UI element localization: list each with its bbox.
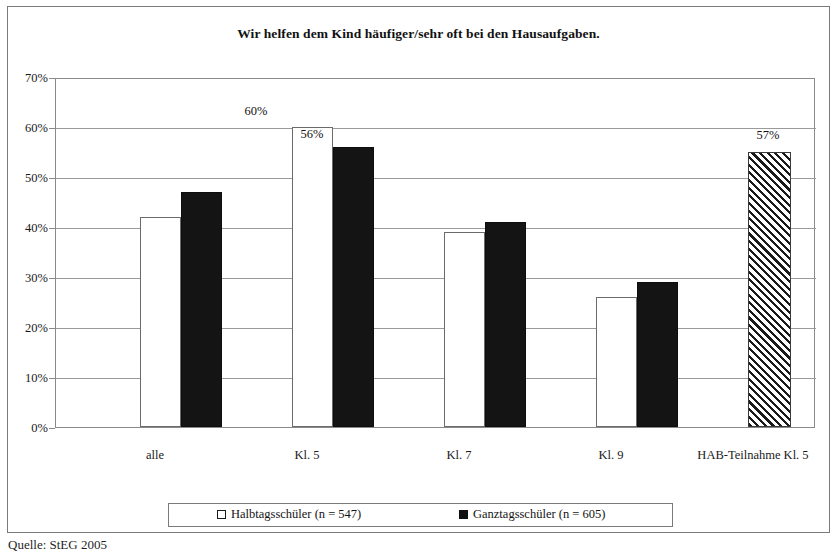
bar-kl7-ganztagsschueler: [485, 222, 526, 427]
x-category-label-hab-teilnahme-kl5: HAB-Teilnahme Kl. 5: [653, 448, 838, 463]
source-caption: Quelle: StEG 2005: [8, 537, 107, 552]
gridline-60: [56, 128, 816, 129]
data-label-kl5-ganztagsschueler: 56%: [272, 127, 352, 142]
bar-kl5-halbtagsschueler: [292, 127, 333, 427]
chart-title: Wir helfen dem Kind häufiger/sehr oft be…: [7, 26, 830, 42]
bar-kl9-ganztagsschueler: [637, 282, 678, 427]
legend-label-ganztagsschueler: Ganztagsschüler (n = 605): [473, 507, 605, 522]
legend-item-ganztagsschueler: Ganztagsschüler (n = 605): [459, 507, 605, 522]
data-label-hab-teilnahme: 57%: [728, 128, 808, 143]
x-category-label-alle: alle: [85, 448, 225, 463]
plot-area: [55, 78, 815, 428]
bar-alle-halbtagsschueler: [140, 217, 181, 427]
white-square-icon: [217, 510, 226, 519]
bar-kl9-halbtagsschueler: [596, 297, 637, 427]
data-label-kl5-halbtagsschueler: 60%: [216, 104, 296, 119]
black-square-icon: [459, 510, 468, 519]
plot-area-wrapper: [55, 78, 815, 428]
bar-alle-ganztagsschueler: [181, 192, 222, 427]
bar-hab-teilnahme-kl5: [748, 152, 791, 427]
legend-label-halbtagsschueler: Halbtagsschüler (n = 547): [231, 507, 361, 522]
x-category-label-kl5: Kl. 5: [237, 448, 377, 463]
chart-figure: Wir helfen dem Kind häufiger/sehr oft be…: [0, 0, 838, 552]
chart-legend: Halbtagsschüler (n = 547) Ganztagsschüle…: [168, 503, 673, 527]
bar-kl5-ganztagsschueler: [333, 147, 374, 427]
bar-kl7-halbtagsschueler: [444, 232, 485, 427]
legend-item-halbtagsschueler: Halbtagsschüler (n = 547): [217, 507, 361, 522]
x-category-label-kl7: Kl. 7: [389, 448, 529, 463]
gridline-50: [56, 178, 816, 179]
